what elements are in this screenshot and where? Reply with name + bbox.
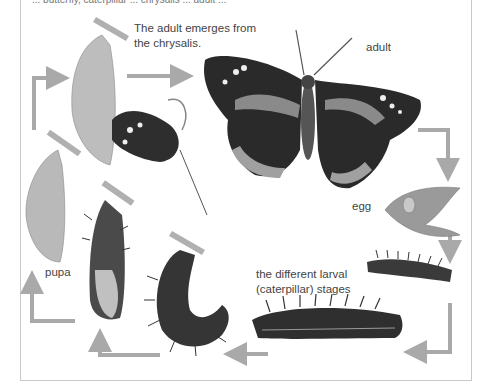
pupa-illustration <box>26 130 81 262</box>
emerge-label: The adult emerges from the chrysalis. <box>134 21 256 51</box>
small-caterpillar-illustration <box>367 250 452 282</box>
larval-label-line-2: (caterpillar) stages <box>256 282 351 297</box>
egg-label: egg <box>352 199 371 214</box>
large-caterpillar-illustration <box>252 294 402 339</box>
larval-label-line-1: the different larval <box>256 267 351 282</box>
emerge-label-line-1: The adult emerges from <box>134 21 256 36</box>
adult-label: adult <box>366 40 391 55</box>
life-cycle-illustration <box>0 0 480 391</box>
larval-label: the different larval (caterpillar) stage… <box>256 267 351 297</box>
pupa-label: pupa <box>45 265 71 280</box>
egg-on-leaf-illustration <box>385 187 460 236</box>
pupating-caterpillar-illustration <box>82 180 134 319</box>
emerge-label-line-2: the chrysalis. <box>134 36 256 51</box>
curled-caterpillar-illustration <box>144 231 229 356</box>
